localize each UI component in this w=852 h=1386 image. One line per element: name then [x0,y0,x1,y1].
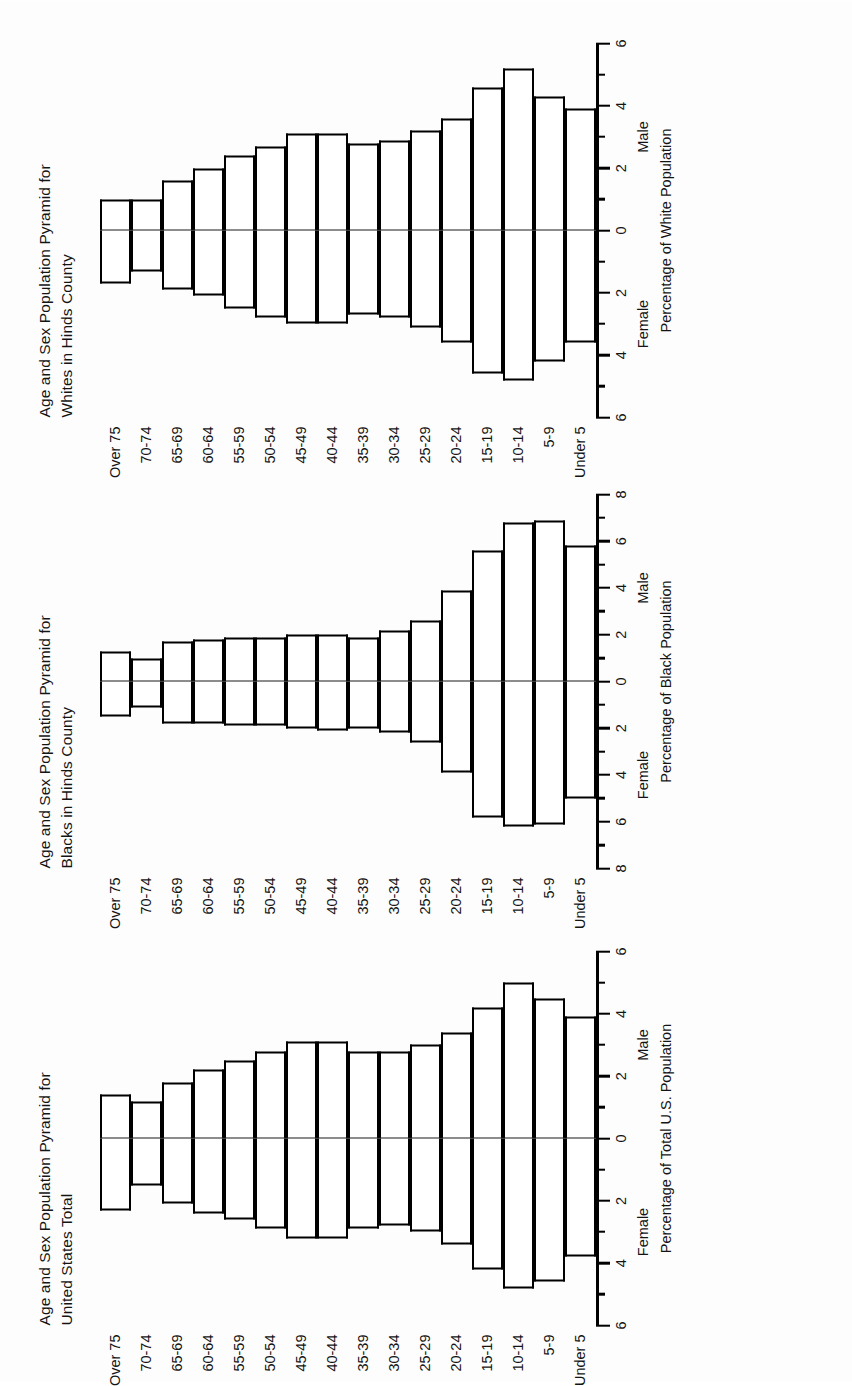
female-half [348,681,379,868]
bar-female [286,681,317,728]
male-half [131,43,162,230]
male-half [317,494,348,681]
axis-tick-label: 0 [613,677,629,685]
axis-tick-minor [596,1043,605,1045]
age-group-label: 45-49 [286,1325,317,1371]
male-half [472,494,503,681]
female-half [224,1138,255,1325]
panel-title: Age and Sex Population Pyramid forBlacks… [34,538,78,868]
bar-female [131,1138,162,1185]
bar-female [317,681,348,730]
female-half [565,1138,596,1325]
male-half [193,951,224,1138]
male-half [317,43,348,230]
axis-tick-major [596,1074,610,1076]
male-half [503,951,534,1138]
bar-male [441,1032,472,1138]
axis-tick-label: 4 [613,770,629,778]
axis-tick-minor [596,73,605,75]
age-group-label: 50-54 [255,868,286,914]
bar-male [193,639,224,681]
age-group-label: 50-54 [255,417,286,463]
axis-tick-label: 2 [613,1072,629,1080]
axis-label-male: Male [635,572,651,603]
panel-title-line-1: Age and Sex Population Pyramid for [34,87,56,417]
age-group-label: 65-69 [162,417,193,463]
age-group-label: 65-69 [162,868,193,914]
male-half [410,951,441,1138]
female-half [131,681,162,868]
male-half [441,494,472,681]
male-half [162,494,193,681]
axis-tick-major [596,229,610,231]
pyramid-bar-rows: Over 7570-7465-6960-6455-5950-5445-4940-… [100,43,596,417]
bar-male [348,1051,379,1138]
age-group-label: Over 75 [100,417,131,478]
female-half [286,681,317,868]
male-half [348,494,379,681]
bar-male [348,143,379,230]
panel-title: Age and Sex Population Pyramid forWhites… [34,87,78,417]
axis-tick-major [596,42,610,44]
female-half [100,1138,131,1325]
male-half [348,951,379,1138]
age-group-label: 70-74 [131,868,162,914]
axis-tick-minor [596,797,605,799]
male-half [534,43,565,230]
female-half [286,1138,317,1325]
axis-tick-label: 0 [613,226,629,234]
female-half [503,230,534,417]
age-group-label: 10-14 [503,1325,534,1371]
axis-tick-major [596,633,610,635]
male-half [162,43,193,230]
axis-tick-major [596,950,610,952]
male-half [286,494,317,681]
bar-female [379,230,410,317]
age-group-label: 40-44 [317,868,348,914]
axis-tick-label: 2 [613,288,629,296]
bar-female [534,1138,565,1281]
axis-tick-major [596,1199,610,1201]
axis-tick-label: 4 [613,583,629,591]
bar-female [534,230,565,361]
bar-female [503,230,534,380]
bar-male [317,1041,348,1138]
female-half [255,1138,286,1325]
axis-tick-minor [596,656,605,658]
bar-male [379,140,410,230]
male-half [472,951,503,1138]
male-half [534,951,565,1138]
age-group-label: 35-39 [348,1325,379,1371]
female-half [441,230,472,417]
female-half [162,1138,193,1325]
male-half [100,951,131,1138]
axis-tick-label: 6 [613,817,629,825]
female-half [317,681,348,868]
bar-male [255,1051,286,1138]
male-half [286,951,317,1138]
bar-male [193,168,224,230]
female-half [224,230,255,417]
axis-tick-minor [596,610,605,612]
axis-tick-minor [596,198,605,200]
panel-title-line-2: United States Total [56,995,78,1325]
axis-tick-major [596,540,610,542]
female-half [503,1138,534,1325]
age-group-label: 60-64 [193,868,224,914]
bar-female [100,230,131,283]
age-group-label: 10-14 [503,417,534,463]
bar-male [565,108,596,230]
male-half [224,43,255,230]
male-half [410,43,441,230]
bar-female [348,681,379,728]
panel-title: Age and Sex Population Pyramid forUnited… [34,995,78,1325]
bar-female [503,681,534,826]
female-half [131,230,162,417]
bar-male [410,130,441,230]
female-half [379,230,410,417]
axis-tick-major [596,820,610,822]
bar-male [286,133,317,230]
female-half [100,230,131,417]
female-half [255,230,286,417]
